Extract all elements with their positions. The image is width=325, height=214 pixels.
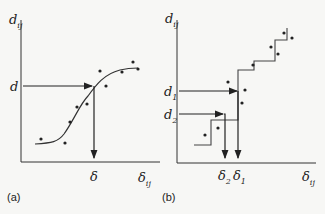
panel-b-x-axis-label: δij	[302, 170, 315, 187]
panel-a-delta-marker: δ	[90, 170, 98, 183]
panel-b-delta1-marker: δ1	[233, 169, 246, 186]
panel-b-arrow-delta2	[224, 114, 225, 158]
panel-b-d1-marker: d1	[164, 85, 177, 102]
figure-canvas	[0, 0, 325, 214]
panel-a-axes	[21, 20, 160, 162]
panel-a-caption: (a)	[7, 191, 20, 203]
panel-b-step-function	[194, 28, 287, 145]
panel-b-delta2-marker: δ2	[218, 169, 231, 186]
panel-b-caption: (b)	[162, 191, 175, 203]
panel-b-d2-marker: d2	[164, 108, 177, 125]
panel-b-points	[203, 31, 293, 136]
panel-a-x-axis-label: δij	[138, 171, 151, 188]
panel-a-y-axis-label: dij	[9, 13, 22, 30]
panel-a-curve	[35, 68, 138, 144]
panel-a-d-marker: d	[10, 80, 18, 93]
panel-a-points	[39, 60, 139, 144]
panel-b-y-axis-label: dij	[165, 12, 178, 29]
